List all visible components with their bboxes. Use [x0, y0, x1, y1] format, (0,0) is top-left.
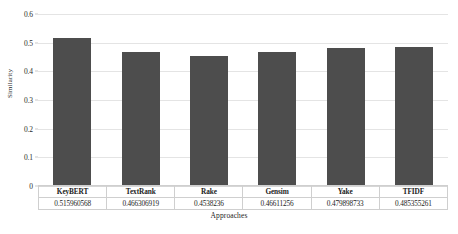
table-row-categories: KeyBERTTextRankRakeGensimYakeTFIDF	[39, 186, 448, 198]
table-cell-category: TFIDF	[379, 186, 447, 198]
table-cell-value: 0.485355261	[379, 198, 447, 210]
table-cell-value: 0.466306919	[107, 198, 175, 210]
table-cell-category: KeyBERT	[39, 186, 107, 198]
table-cell-value: 0.46611256	[243, 198, 311, 210]
y-tick-label: 0	[29, 182, 33, 191]
table-cell-value: 0.515960568	[39, 198, 107, 210]
bar	[122, 52, 160, 186]
table-cell-category: Yake	[311, 186, 379, 198]
x-axis-title: Approaches	[0, 211, 458, 220]
bar-series	[38, 14, 448, 186]
table-cell-category: Gensim	[243, 186, 311, 198]
data-table: KeyBERTTextRankRakeGensimYakeTFIDF 0.515…	[38, 185, 448, 210]
y-axis-title: Similarity	[6, 69, 14, 98]
y-tick-label: 0.1	[24, 153, 33, 162]
y-tick-label: 0.4	[24, 67, 33, 76]
table-cell-value: 0.479898733	[311, 198, 379, 210]
bar	[53, 38, 91, 186]
table-cell-category: TextRank	[107, 186, 175, 198]
y-tick-label: 0.5	[24, 38, 33, 47]
bar	[327, 48, 365, 186]
table-row-values: 0.5159605680.4663069190.45382360.4661125…	[39, 198, 448, 210]
plot-area: 00.10.20.30.40.50.6	[38, 14, 448, 186]
y-tick-label: 0.3	[24, 96, 33, 105]
bar	[190, 56, 228, 186]
y-tick-label: 0.2	[24, 124, 33, 133]
bar	[258, 52, 296, 186]
bar	[395, 47, 433, 186]
table-cell-value: 0.4538236	[175, 198, 243, 210]
table-cell-category: Rake	[175, 186, 243, 198]
bar-chart-figure: Similarity 00.10.20.30.40.50.6 KeyBERTTe…	[0, 0, 458, 234]
y-tick-label: 0.6	[24, 10, 33, 19]
